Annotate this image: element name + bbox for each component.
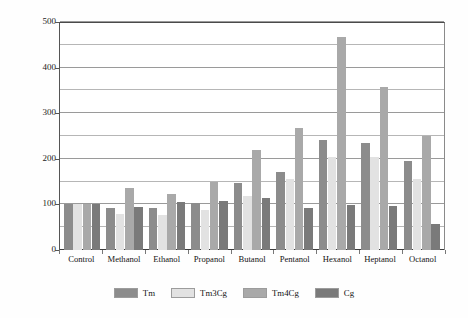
bar-cg-heptanol <box>389 206 398 250</box>
bar-group <box>103 22 145 250</box>
bar-cg-pentanol <box>304 208 313 250</box>
bar-tm-octanol <box>404 161 413 250</box>
legend-entry-cg: Cg <box>315 288 354 298</box>
bar-tm4cg-butanol <box>252 150 261 250</box>
x-axis-label-propanol: Propanol <box>188 254 231 264</box>
bar-group <box>273 22 315 250</box>
legend-label-cg: Cg <box>344 288 354 298</box>
y-tick-label: 500 <box>28 16 56 26</box>
legend-label-tm: Tm <box>143 288 155 298</box>
bar-tm4cg-control <box>83 204 92 250</box>
legend-swatch-tm <box>114 288 138 298</box>
bar-tm3cg-methanol <box>116 214 125 250</box>
y-tick-label: 0 <box>28 244 56 254</box>
bar-cg-propanol <box>219 201 228 250</box>
bar-group <box>401 22 443 250</box>
bar-tm4cg-pentanol <box>295 128 304 250</box>
bar-cg-octanol <box>431 224 440 250</box>
bar-tm4cg-ethanol <box>167 194 176 250</box>
x-axis-label-octanol: Octanol <box>401 254 444 264</box>
bar-tm4cg-heptanol <box>380 87 389 250</box>
legend-entry-tm4cg: Tm4Cg <box>243 288 299 298</box>
y-tick-label: 200 <box>28 153 56 163</box>
bar-tm-methanol <box>106 208 115 250</box>
x-axis-label-methanol: Methanol <box>103 254 146 264</box>
bar-tm3cg-ethanol <box>158 215 167 250</box>
x-axis-label-butanol: Butanol <box>231 254 274 264</box>
bar-tm4cg-propanol <box>210 182 219 250</box>
bar-group <box>358 22 400 250</box>
legend-swatch-tm3cg <box>171 288 195 298</box>
y-tick-label: 100 <box>28 198 56 208</box>
x-axis-label-control: Control <box>60 254 103 264</box>
bar-cg-ethanol <box>177 202 186 250</box>
chart-legend: TmTm3CgTm4CgCg <box>0 288 468 298</box>
bar-tm-control <box>64 204 73 250</box>
bar-tm-ethanol <box>149 208 158 250</box>
bar-tm3cg-propanol <box>201 210 210 250</box>
bar-tm3cg-hexanol <box>328 157 337 250</box>
y-tick-label: 400 <box>28 62 56 72</box>
bar-tm3cg-control <box>73 204 82 250</box>
bar-tm3cg-butanol <box>243 196 252 250</box>
bar-group <box>188 22 230 250</box>
bar-tm-heptanol <box>361 143 370 250</box>
x-axis-label-hexanol: Hexanol <box>316 254 359 264</box>
bar-tm3cg-heptanol <box>370 157 379 250</box>
bar-chart: Relative Activity (%) 0100200300400500 C… <box>0 0 468 318</box>
x-tick-mark <box>445 250 446 254</box>
x-axis-label-heptanol: Heptanol <box>359 254 402 264</box>
bars-layer <box>59 22 445 250</box>
x-axis-label-pentanol: Pentanol <box>273 254 316 264</box>
bar-tm4cg-octanol <box>422 136 431 250</box>
y-tick-label: 300 <box>28 107 56 117</box>
bar-cg-butanol <box>262 198 271 250</box>
bar-tm-hexanol <box>319 140 328 250</box>
x-axis-label-ethanol: Ethanol <box>145 254 188 264</box>
legend-swatch-cg <box>315 288 339 298</box>
bar-tm4cg-hexanol <box>337 37 346 250</box>
bar-group <box>146 22 188 250</box>
legend-label-tm4cg: Tm4Cg <box>272 288 299 298</box>
bar-tm-butanol <box>234 183 243 250</box>
bar-tm-pentanol <box>276 172 285 250</box>
bar-tm-propanol <box>191 203 200 250</box>
bar-cg-methanol <box>134 207 143 250</box>
legend-entry-tm: Tm <box>114 288 155 298</box>
bar-cg-control <box>92 204 101 250</box>
x-axis-labels: ControlMethanolEthanolPropanolButanolPen… <box>59 254 445 264</box>
bar-group <box>231 22 273 250</box>
legend-entry-tm3cg: Tm3Cg <box>171 288 227 298</box>
bar-group <box>61 22 103 250</box>
bar-tm4cg-methanol <box>125 188 134 250</box>
bar-tm3cg-octanol <box>413 179 422 250</box>
legend-swatch-tm4cg <box>243 288 267 298</box>
bar-tm3cg-pentanol <box>286 179 295 250</box>
bar-cg-hexanol <box>347 205 356 250</box>
bar-group <box>316 22 358 250</box>
legend-label-tm3cg: Tm3Cg <box>200 288 227 298</box>
